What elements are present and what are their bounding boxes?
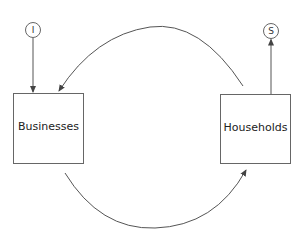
bottom-flow-arrow [65,170,246,228]
top-flow-arrow [59,26,243,91]
households-label: Households [220,121,291,134]
businesses-label: Businesses [13,120,84,133]
withdrawal-label: S [264,24,278,38]
injection-label: I [26,23,40,37]
